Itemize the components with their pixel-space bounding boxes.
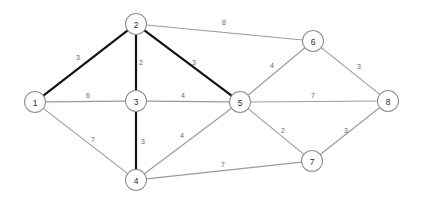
graph-edge-1-2 xyxy=(43,30,127,95)
edge-weight-2-5: 3 xyxy=(192,59,196,66)
edge-weight-5-8: 7 xyxy=(311,92,315,99)
graph-edge-2-6 xyxy=(146,25,302,40)
graph-edge-7-8 xyxy=(320,108,380,155)
graph-edge-3-5 xyxy=(146,101,229,102)
graph-node-8[interactable]: 8 xyxy=(378,91,399,112)
edge-weight-1-4: 7 xyxy=(91,136,95,143)
node-label-5: 5 xyxy=(238,98,243,108)
node-label-3: 3 xyxy=(134,97,139,107)
edge-layer xyxy=(43,25,379,179)
graph-canvas: 367238344742733 12345678 xyxy=(0,0,421,204)
edge-weight-5-6: 4 xyxy=(270,62,274,69)
node-label-6: 6 xyxy=(311,37,316,47)
edge-weight-4-5: 4 xyxy=(180,132,184,139)
edge-weight-3-5: 4 xyxy=(181,92,185,99)
edge-weight-2-3: 2 xyxy=(139,59,143,66)
edge-weight-1-3: 6 xyxy=(86,92,90,99)
node-label-4: 4 xyxy=(134,176,139,186)
graph-edge-2-5 xyxy=(144,30,231,95)
graph-node-1[interactable]: 1 xyxy=(25,92,46,113)
node-label-7: 7 xyxy=(310,157,315,167)
graph-edge-5-7 xyxy=(248,109,304,155)
edge-weight-7-8: 3 xyxy=(344,127,348,134)
edge-weight-4-7: 7 xyxy=(221,161,225,168)
graph-node-3[interactable]: 3 xyxy=(126,91,147,112)
edge-weight-1-2: 3 xyxy=(76,54,80,61)
graph-edge-5-8 xyxy=(250,101,377,102)
edge-weight-3-4: 3 xyxy=(141,138,145,145)
node-label-1: 1 xyxy=(33,98,38,108)
edge-weight-5-7: 2 xyxy=(281,127,285,134)
graph-node-6[interactable]: 6 xyxy=(303,31,324,52)
graph-edge-1-4 xyxy=(43,108,127,173)
graph-edge-1-3 xyxy=(45,101,125,102)
node-label-2: 2 xyxy=(134,20,139,30)
edge-weight-2-6: 8 xyxy=(222,19,226,26)
graph-edge-6-8 xyxy=(321,48,380,95)
graph-edge-4-5 xyxy=(144,108,231,173)
graph-diagram: 367238344742733 12345678 xyxy=(0,0,421,204)
node-label-8: 8 xyxy=(386,97,391,107)
graph-node-2[interactable]: 2 xyxy=(126,14,147,35)
graph-node-5[interactable]: 5 xyxy=(230,92,251,113)
graph-node-4[interactable]: 4 xyxy=(126,170,147,191)
edge-weight-6-8: 3 xyxy=(357,63,361,70)
graph-node-7[interactable]: 7 xyxy=(302,151,323,172)
graph-edge-5-6 xyxy=(248,48,305,96)
